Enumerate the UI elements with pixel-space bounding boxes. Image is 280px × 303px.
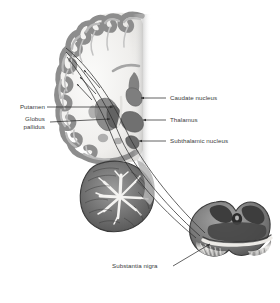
cerebral-hemisphere xyxy=(57,13,151,166)
midbrain-cross-section xyxy=(190,201,272,256)
label-putamen: Putamen xyxy=(20,103,46,110)
tegmentum xyxy=(208,222,267,242)
label-globus-pallidus-line1: Globus xyxy=(25,115,45,122)
label-globus-pallidus-line2: pallidus xyxy=(24,123,45,130)
label-caudate-nucleus: Caudate nucleus xyxy=(170,94,217,101)
label-thalamus: Thalamus xyxy=(170,116,198,123)
label-subthalamic-nucleus: Subthalamic nucleus xyxy=(170,137,228,144)
aqueduct-lumen xyxy=(235,216,239,221)
label-substantia-nigra: Substantia nigra xyxy=(112,262,158,269)
basal-ganglia-figure: Putamen Globus pallidus Caudate nucleus … xyxy=(0,0,280,303)
